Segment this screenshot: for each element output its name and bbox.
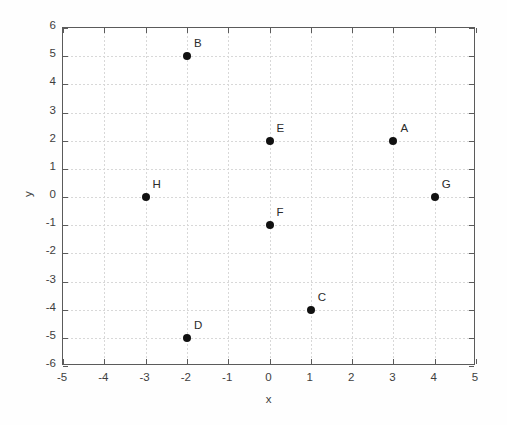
- x-tick-mark: [146, 28, 147, 33]
- y-tick-label: 6: [30, 19, 56, 31]
- y-tick-mark: [63, 310, 68, 311]
- y-tick-label: 5: [30, 47, 56, 59]
- gridline-vertical: [228, 28, 229, 364]
- y-tick-mark: [63, 169, 68, 170]
- x-tick-mark: [393, 28, 394, 33]
- x-axis-label: x: [239, 393, 299, 405]
- y-tick-label: 4: [30, 75, 56, 87]
- gridline-horizontal: [63, 310, 474, 311]
- y-tick-mark: [63, 282, 68, 283]
- data-point-c[interactable]: [307, 306, 315, 314]
- x-tick-mark: [187, 28, 188, 33]
- gridline-vertical: [187, 28, 188, 364]
- data-point-label-f: F: [277, 206, 284, 218]
- x-tick-mark: [104, 359, 105, 364]
- x-tick-label: 0: [254, 371, 284, 383]
- x-tick-mark: [352, 359, 353, 364]
- data-point-h[interactable]: [142, 193, 150, 201]
- x-tick-mark: [476, 28, 477, 33]
- x-tick-label: -4: [88, 371, 118, 383]
- x-tick-mark: [187, 359, 188, 364]
- gridline-horizontal: [63, 56, 474, 57]
- y-tick-label: -4: [30, 301, 56, 313]
- data-point-b[interactable]: [183, 52, 191, 60]
- y-tick-mark: [63, 113, 68, 114]
- y-tick-mark: [63, 225, 68, 226]
- x-tick-mark: [63, 359, 64, 364]
- y-tick-mark: [469, 169, 474, 170]
- gridline-horizontal: [63, 253, 474, 254]
- x-tick-label: -3: [130, 371, 160, 383]
- y-tick-label: -2: [30, 244, 56, 256]
- x-tick-mark: [228, 359, 229, 364]
- x-tick-mark: [435, 28, 436, 33]
- data-point-label-h: H: [153, 178, 161, 190]
- x-tick-mark: [311, 359, 312, 364]
- gridline-horizontal: [63, 113, 474, 114]
- x-tick-label: -1: [212, 371, 242, 383]
- y-tick-mark: [63, 338, 68, 339]
- y-tick-mark: [469, 28, 474, 29]
- x-tick-mark: [228, 28, 229, 33]
- y-tick-mark: [469, 56, 474, 57]
- y-tick-mark: [63, 253, 68, 254]
- y-tick-mark: [63, 28, 68, 29]
- x-tick-label: -2: [171, 371, 201, 383]
- data-point-g[interactable]: [431, 193, 439, 201]
- y-tick-mark: [469, 310, 474, 311]
- data-point-label-b: B: [194, 37, 202, 49]
- y-tick-mark: [63, 197, 68, 198]
- x-tick-label: 5: [460, 371, 490, 383]
- x-tick-mark: [104, 28, 105, 33]
- data-point-e[interactable]: [266, 137, 274, 145]
- y-tick-mark: [469, 282, 474, 283]
- y-tick-label: -6: [30, 357, 56, 369]
- y-tick-mark: [469, 197, 474, 198]
- x-tick-mark: [270, 359, 271, 364]
- x-tick-label: 1: [295, 371, 325, 383]
- x-tick-label: -5: [47, 371, 77, 383]
- data-point-label-c: C: [318, 291, 326, 303]
- gridline-vertical: [352, 28, 353, 364]
- data-point-label-d: D: [194, 319, 202, 331]
- data-point-label-g: G: [442, 178, 451, 190]
- x-tick-mark: [435, 359, 436, 364]
- x-tick-label: 4: [419, 371, 449, 383]
- y-tick-mark: [469, 113, 474, 114]
- gridline-vertical: [393, 28, 394, 364]
- y-tick-mark: [469, 338, 474, 339]
- y-tick-label: 1: [30, 160, 56, 172]
- gridline-vertical: [104, 28, 105, 364]
- x-tick-mark: [476, 359, 477, 364]
- gridline-horizontal: [63, 84, 474, 85]
- x-tick-mark: [311, 28, 312, 33]
- x-tick-mark: [146, 359, 147, 364]
- y-tick-label: 2: [30, 132, 56, 144]
- data-point-a[interactable]: [389, 137, 397, 145]
- gridline-horizontal: [63, 197, 474, 198]
- y-tick-mark: [63, 366, 68, 367]
- x-tick-mark: [352, 28, 353, 33]
- data-point-label-a: A: [400, 122, 408, 134]
- data-point-f[interactable]: [266, 221, 274, 229]
- data-point-label-e: E: [277, 122, 285, 134]
- gridlines: [63, 28, 474, 364]
- y-tick-mark: [469, 253, 474, 254]
- y-tick-mark: [63, 141, 68, 142]
- y-tick-label: 3: [30, 104, 56, 116]
- y-tick-mark: [469, 225, 474, 226]
- y-tick-mark: [469, 366, 474, 367]
- x-tick-mark: [270, 28, 271, 33]
- y-tick-label: -5: [30, 329, 56, 341]
- x-tick-label: 2: [336, 371, 366, 383]
- data-point-d[interactable]: [183, 334, 191, 342]
- gridline-horizontal: [63, 169, 474, 170]
- y-tick-label: -3: [30, 273, 56, 285]
- scatter-plot-figure: ABCDEFGH -5-4-3-2-1012345 6543210-1-2-3-…: [0, 0, 507, 425]
- x-tick-label: 3: [377, 371, 407, 383]
- gridline-vertical: [270, 28, 271, 364]
- gridline-horizontal: [63, 338, 474, 339]
- y-tick-mark: [63, 56, 68, 57]
- y-axis-label: y: [22, 179, 34, 209]
- gridline-horizontal: [63, 282, 474, 283]
